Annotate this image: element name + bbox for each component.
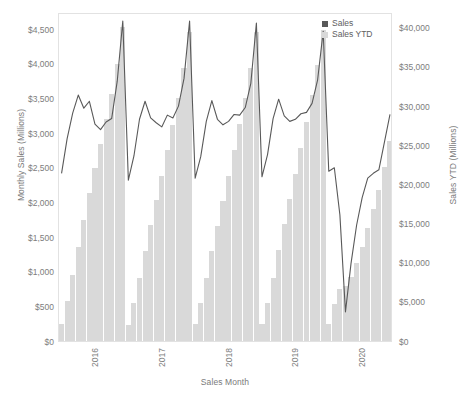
legend-item[interactable]: Sales: [322, 18, 372, 29]
legend-swatch-icon: [322, 21, 328, 27]
x-axis-tick-label: 2018: [224, 348, 234, 367]
y-axis-right-title: Sales YTD (Millions): [448, 95, 458, 235]
chart-legend: SalesSales YTD: [322, 18, 372, 40]
x-axis-tick-label: 2019: [290, 348, 300, 367]
x-axis-ticks: 20162017201820192020: [0, 0, 468, 398]
y-axis-left-title: Monthly Sales (Millions): [16, 85, 26, 225]
legend-label: Sales YTD: [332, 29, 372, 40]
legend-item[interactable]: Sales YTD: [322, 29, 372, 40]
x-axis-title: Sales Month: [58, 377, 392, 387]
legend-label: Sales: [332, 18, 353, 29]
sales-ytd-chart: $0$500$1,000$1,500$2,000$2,500$3,000$3,5…: [0, 0, 468, 398]
x-axis-tick-label: 2017: [157, 348, 167, 367]
legend-swatch-icon: [322, 32, 328, 38]
x-axis-tick-label: 2020: [357, 348, 367, 367]
x-axis-tick-label: 2016: [90, 348, 100, 367]
